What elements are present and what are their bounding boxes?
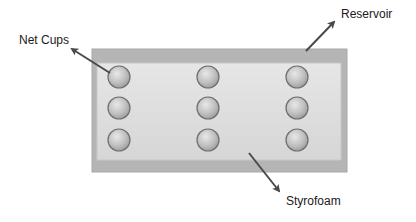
reservoir-arrow-icon: [306, 22, 334, 51]
net-cup: [286, 97, 308, 119]
net-cup: [197, 97, 219, 119]
net-cup: [197, 129, 219, 151]
net-cup: [286, 66, 308, 88]
net-cups-label: Net Cups: [19, 33, 69, 47]
net-cup: [108, 66, 130, 88]
net-cup: [108, 129, 130, 151]
reservoir-label: Reservoir: [341, 7, 392, 21]
styrofoam-label: Styrofoam: [286, 194, 341, 208]
net-cup: [197, 66, 219, 88]
net-cup: [108, 97, 130, 119]
net-cup: [286, 129, 308, 151]
